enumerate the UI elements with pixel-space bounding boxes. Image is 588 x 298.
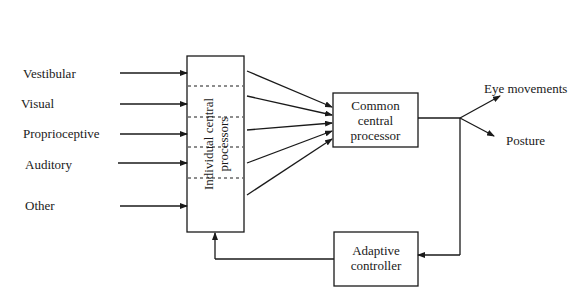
common-processor-line3: processor xyxy=(333,128,418,143)
diagram-canvas xyxy=(0,0,588,298)
individual-processors-label: Individual central processors xyxy=(201,69,231,219)
individual-processors-line2: processors xyxy=(216,69,231,219)
output-label-eye-movements: Eye movements xyxy=(484,82,567,95)
common-processor-label: Common central processor xyxy=(333,98,418,143)
common-processor-line1: Common xyxy=(333,98,418,113)
common-processor-line2: central xyxy=(333,113,418,128)
adaptive-controller-line2: controller xyxy=(334,258,418,273)
adaptive-controller-line1: Adaptive xyxy=(334,243,418,258)
adaptive-controller-label: Adaptive controller xyxy=(334,243,418,273)
input-label-other: Other xyxy=(25,199,55,212)
input-label-vestibular: Vestibular xyxy=(23,67,76,80)
output-label-posture: Posture xyxy=(506,134,545,147)
input-label-proprioceptive: Proprioceptive xyxy=(23,127,100,140)
input-label-auditory: Auditory xyxy=(25,158,72,171)
individual-processors-line1: Individual central xyxy=(201,69,216,219)
input-label-visual: Visual xyxy=(21,97,54,110)
